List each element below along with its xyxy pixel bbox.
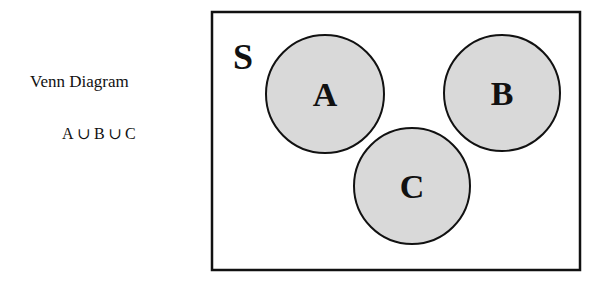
set-c: C [354, 128, 470, 244]
set-c-label: C [400, 168, 425, 205]
universe-label: S [233, 37, 253, 77]
set-b: B [444, 35, 560, 151]
set-a-label: A [313, 76, 338, 113]
venn-diagram: S A B C [0, 0, 608, 286]
set-a: A [266, 35, 384, 153]
set-b-label: B [491, 75, 514, 112]
